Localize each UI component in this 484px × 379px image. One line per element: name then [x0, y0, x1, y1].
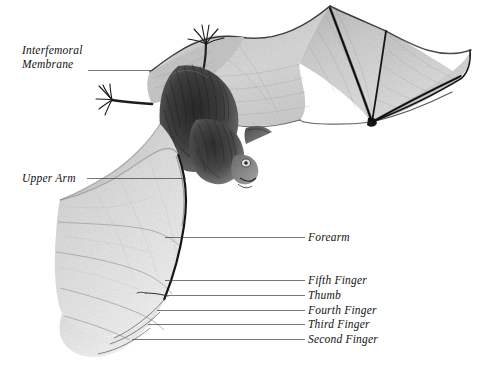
label-interfemoral-membrane-line1: Interfemoral [22, 44, 83, 58]
label-interfemoral-membrane: Interfemoral Membrane [22, 44, 83, 71]
label-upper-arm: Upper Arm [22, 172, 76, 186]
label-forearm: Forearm [308, 231, 350, 245]
label-second-finger: Second Finger [308, 333, 378, 347]
label-thumb: Thumb [308, 289, 341, 303]
label-fourth-finger: Fourth Finger [308, 304, 377, 318]
label-fifth-finger: Fifth Finger [308, 274, 367, 288]
bone-forearm-upper [300, 120, 372, 124]
label-interfemoral-membrane-line2: Membrane [22, 58, 83, 72]
lower-wing [55, 124, 186, 357]
foot-lower [96, 84, 152, 115]
label-third-finger: Third Finger [308, 318, 370, 332]
